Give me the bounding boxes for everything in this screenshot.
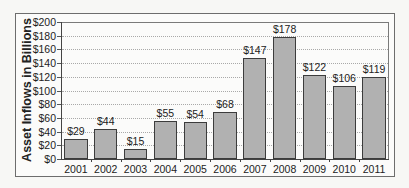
- x-tick-label: 2009: [303, 163, 326, 175]
- gridline: [62, 49, 388, 50]
- x-tick-label: 2001: [64, 163, 87, 175]
- y-tick-label: $0: [0, 153, 56, 165]
- y-tick-label: $20: [0, 139, 56, 151]
- bar-2002: [94, 129, 117, 159]
- y-tick-label: $60: [0, 112, 56, 124]
- y-tick-label: $140: [0, 57, 56, 69]
- x-tick-label: 2008: [273, 163, 296, 175]
- x-tick-label: 2006: [213, 163, 236, 175]
- bar-2010: [333, 86, 356, 159]
- y-tick-label: $160: [0, 43, 56, 55]
- bar-2009: [303, 75, 326, 159]
- x-tick-label: 2011: [363, 163, 386, 175]
- bar-2006: [213, 112, 236, 159]
- x-tick-label: 2007: [243, 163, 266, 175]
- x-tick-label: 2002: [94, 163, 117, 175]
- bar-2005: [184, 122, 207, 159]
- bar-2011: [362, 77, 385, 159]
- gridline: [62, 36, 388, 37]
- bar-2001: [64, 139, 87, 159]
- data-label: $55: [157, 107, 175, 119]
- y-tick-label: $180: [0, 30, 56, 42]
- data-label: $29: [67, 125, 85, 137]
- bar-2004: [154, 121, 177, 159]
- data-label: $54: [186, 108, 204, 120]
- y-tick-label: $200: [0, 16, 56, 28]
- y-tick-label: $100: [0, 85, 56, 97]
- data-label: $147: [243, 44, 266, 56]
- data-label: $178: [273, 23, 296, 35]
- bar-2003: [124, 149, 147, 159]
- x-tick-label: 2003: [124, 163, 147, 175]
- y-tick-label: $40: [0, 126, 56, 138]
- y-tick-label: $120: [0, 71, 56, 83]
- data-label: $122: [303, 61, 326, 73]
- bar-2007: [243, 58, 266, 159]
- y-tick-label: $80: [0, 98, 56, 110]
- data-label: $119: [363, 63, 386, 75]
- x-tick-label: 2005: [183, 163, 206, 175]
- gridline: [62, 63, 388, 64]
- x-axis: [61, 159, 389, 160]
- y-axis: [61, 22, 62, 159]
- data-label: $15: [127, 135, 145, 147]
- x-tick-label: 2010: [333, 163, 356, 175]
- data-label: $106: [333, 72, 356, 84]
- bar-2008: [273, 37, 296, 159]
- data-label: $44: [97, 115, 115, 127]
- x-tick-label: 2004: [154, 163, 177, 175]
- data-label: $68: [216, 98, 234, 110]
